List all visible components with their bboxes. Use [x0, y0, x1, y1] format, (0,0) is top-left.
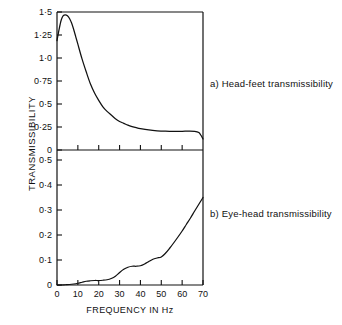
curve-head-feet — [57, 15, 203, 139]
panel-b-ticks — [57, 160, 62, 285]
y-tick-label: 1·0 — [18, 54, 52, 63]
panel-b-caption: b) Eye-head transmissibility — [210, 208, 332, 219]
y-tick-label: 0·75 — [18, 77, 52, 86]
y-tick-label: 0 — [18, 281, 52, 290]
panel-a-ticks — [57, 12, 62, 150]
panel-b-frame — [57, 150, 203, 285]
curve-eye-head — [57, 198, 203, 286]
x-axis-tick-labels: 010203040506070 — [0, 290, 342, 302]
x-axis-title: FREQUENCY IN Hz — [57, 305, 203, 315]
shared-x-ticks-upper — [78, 145, 182, 150]
y-tick-label: 0·3 — [18, 206, 52, 215]
y-tick-label: 0·5 — [18, 156, 52, 165]
x-tick-label: 70 — [189, 290, 217, 299]
y-tick-label: 1·5 — [18, 8, 52, 17]
y-axis-tick-labels: 00·250·50·751·01·251·500·10·20·30·40·5 — [12, 0, 52, 325]
y-tick-label: 0·5 — [18, 100, 52, 109]
y-tick-label: 0·1 — [18, 256, 52, 265]
y-tick-label: 1·25 — [18, 31, 52, 40]
y-tick-label: 0·25 — [18, 123, 52, 132]
y-tick-label: 0·4 — [18, 181, 52, 190]
panel-a-frame — [57, 12, 203, 150]
figure-container: TRANSMISSIBILITY 00·250·50·751·01·251·50… — [0, 0, 342, 325]
y-tick-label: 0·2 — [18, 231, 52, 240]
y-tick-label: 0 — [18, 146, 52, 155]
panel-a-caption: a) Head-feet transmissibility — [210, 78, 333, 89]
